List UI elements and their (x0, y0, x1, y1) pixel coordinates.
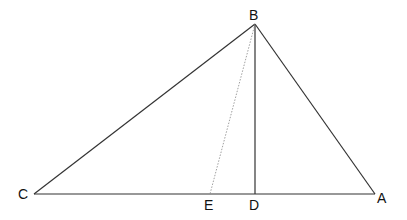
segment-ab (255, 24, 375, 194)
label-b: B (249, 7, 258, 23)
label-e: E (204, 197, 213, 213)
label-d: D (249, 197, 259, 213)
label-a: A (377, 190, 387, 206)
segment-be (210, 24, 255, 194)
label-c: C (18, 186, 28, 202)
segment-bc (34, 24, 255, 194)
triangle-diagram: B C A E D (0, 0, 407, 220)
